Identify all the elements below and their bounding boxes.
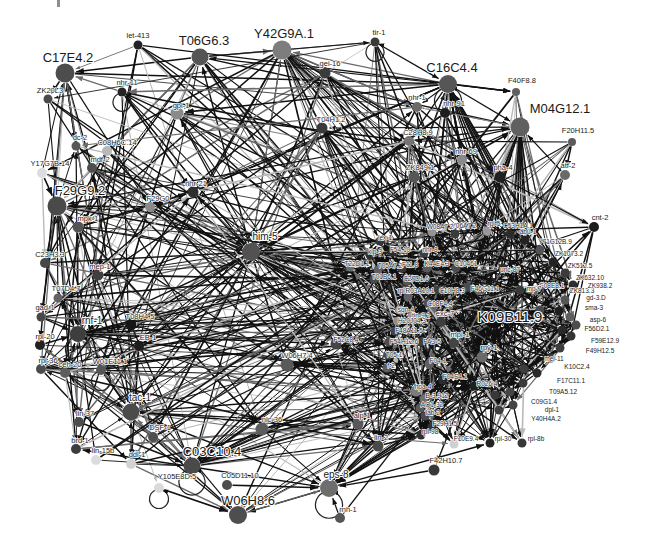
network-node[interactable] bbox=[87, 163, 97, 173]
network-node[interactable] bbox=[512, 88, 520, 96]
network-node[interactable] bbox=[555, 307, 564, 316]
node-label: ddl-1 bbox=[129, 450, 146, 459]
network-node[interactable] bbox=[320, 68, 331, 79]
network-node[interactable] bbox=[154, 483, 164, 493]
network-node[interactable] bbox=[556, 344, 565, 353]
network-node[interactable] bbox=[273, 41, 292, 60]
network-node[interactable] bbox=[561, 269, 570, 278]
network-node[interactable] bbox=[566, 313, 575, 322]
node-label: C16C4.4 bbox=[426, 60, 477, 75]
network-node[interactable] bbox=[93, 270, 104, 281]
node-label: F56D2.1 bbox=[585, 325, 610, 332]
network-node[interactable] bbox=[429, 465, 440, 476]
node-label: rpy-1 bbox=[480, 343, 497, 352]
network-node[interactable] bbox=[449, 338, 459, 348]
network-node[interactable] bbox=[37, 168, 47, 178]
network-node[interactable] bbox=[516, 286, 525, 295]
network-node[interactable] bbox=[518, 439, 527, 448]
node-label: PA3-5 bbox=[423, 338, 441, 345]
network-node[interactable] bbox=[134, 41, 143, 50]
node-label: W08A7.2 bbox=[427, 223, 454, 230]
network-node[interactable] bbox=[71, 444, 81, 454]
network-node[interactable] bbox=[192, 49, 209, 66]
network-node[interactable] bbox=[520, 365, 529, 374]
network-node[interactable] bbox=[126, 320, 137, 331]
network-node[interactable] bbox=[457, 155, 467, 165]
node-label: ZK849.1 bbox=[406, 163, 434, 172]
network-node[interactable] bbox=[317, 123, 328, 134]
network-node[interactable] bbox=[123, 404, 140, 421]
network-node[interactable] bbox=[44, 95, 53, 104]
network-node[interactable] bbox=[48, 197, 67, 216]
node-label: K10C2.4 bbox=[564, 363, 590, 370]
network-node[interactable] bbox=[335, 513, 345, 523]
node-label: mdf-2 bbox=[90, 155, 109, 164]
network-node[interactable] bbox=[70, 326, 86, 342]
network-node[interactable] bbox=[589, 222, 599, 232]
node-label: F10E9.4 bbox=[454, 435, 479, 442]
network-node[interactable] bbox=[521, 236, 530, 245]
node-label: Y17G7B.14 bbox=[31, 159, 70, 168]
network-node[interactable] bbox=[495, 406, 504, 415]
node-label: ceh-20 bbox=[59, 360, 82, 369]
network-node[interactable] bbox=[320, 479, 338, 497]
network-node[interactable] bbox=[560, 170, 570, 180]
network-node[interactable] bbox=[148, 432, 158, 442]
network-node[interactable] bbox=[567, 332, 576, 341]
network-node[interactable] bbox=[451, 230, 460, 239]
network-node[interactable] bbox=[483, 227, 492, 236]
node-label: C09G1.4 bbox=[531, 398, 557, 405]
network-node[interactable] bbox=[72, 142, 81, 151]
network-node[interactable] bbox=[519, 379, 528, 388]
network-node[interactable] bbox=[353, 419, 364, 430]
network-node[interactable] bbox=[509, 401, 518, 410]
network-node[interactable] bbox=[145, 202, 155, 212]
network-node[interactable] bbox=[477, 352, 488, 363]
network-node[interactable] bbox=[74, 417, 84, 427]
network-node[interactable] bbox=[436, 317, 446, 327]
node-label: EB-1 bbox=[140, 333, 157, 342]
network-node[interactable] bbox=[506, 388, 515, 397]
network-node[interactable] bbox=[572, 321, 581, 330]
network-node[interactable] bbox=[188, 187, 199, 198]
network-node[interactable] bbox=[412, 102, 422, 112]
network-node[interactable] bbox=[511, 118, 530, 137]
network-node[interactable] bbox=[134, 341, 144, 351]
network-node[interactable] bbox=[440, 108, 450, 118]
node-label: mp-7 bbox=[527, 285, 542, 293]
network-node[interactable] bbox=[409, 172, 420, 183]
network-node[interactable] bbox=[35, 340, 45, 350]
network-node[interactable] bbox=[281, 359, 294, 372]
network-node[interactable] bbox=[91, 455, 101, 465]
network-node[interactable] bbox=[222, 480, 232, 490]
network-node[interactable] bbox=[371, 38, 380, 47]
network-node[interactable] bbox=[533, 369, 542, 378]
network-node[interactable] bbox=[96, 365, 106, 375]
network-node[interactable] bbox=[60, 368, 70, 378]
network-node[interactable] bbox=[229, 506, 247, 524]
network-node[interactable] bbox=[558, 326, 567, 335]
network-node[interactable] bbox=[536, 246, 545, 255]
network-node[interactable] bbox=[37, 313, 46, 322]
network-node[interactable] bbox=[40, 258, 50, 268]
network-node[interactable] bbox=[242, 243, 260, 261]
network-node[interactable] bbox=[54, 294, 63, 303]
network-node[interactable] bbox=[36, 364, 46, 374]
network-node[interactable] bbox=[118, 88, 127, 97]
network-edge bbox=[428, 420, 429, 422]
network-node[interactable] bbox=[373, 441, 384, 452]
network-node[interactable] bbox=[73, 222, 84, 233]
network-node[interactable] bbox=[561, 296, 570, 305]
network-node[interactable] bbox=[404, 136, 414, 146]
network-node[interactable] bbox=[439, 75, 457, 93]
network-node[interactable] bbox=[495, 172, 506, 183]
network-node[interactable] bbox=[126, 459, 136, 469]
network-node[interactable] bbox=[486, 439, 495, 448]
network-node[interactable] bbox=[256, 423, 269, 436]
network-node[interactable] bbox=[568, 138, 576, 146]
node-label: pha-4 bbox=[493, 163, 512, 172]
network-node[interactable] bbox=[549, 258, 558, 267]
network-node[interactable] bbox=[56, 64, 75, 83]
network-node[interactable] bbox=[491, 391, 500, 400]
network-node[interactable] bbox=[506, 230, 515, 239]
